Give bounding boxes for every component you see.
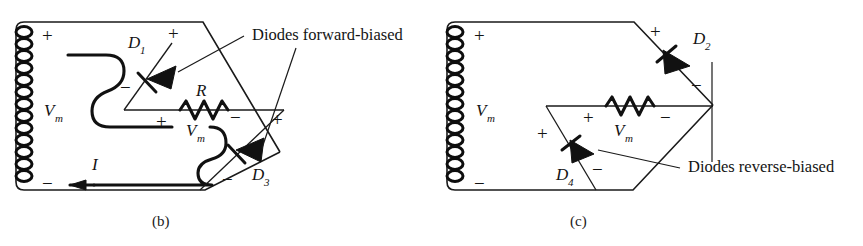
- panel-b-caption: (b): [152, 213, 170, 230]
- diode-d4-minus: −: [592, 159, 603, 180]
- load-minus-c: −: [660, 107, 671, 128]
- callout-reverse-biased: Diodes reverse-biased: [688, 157, 835, 176]
- panel-c: + − V m + − V m D 2 +: [447, 21, 835, 230]
- circuit-diagram-svg: + − V m I: [0, 0, 863, 246]
- source-minus-b: −: [42, 173, 53, 194]
- panel-b-outer-loop: [24, 22, 280, 190]
- diode-d4-label-sub: 4: [568, 176, 574, 188]
- panel-c-caption: (c): [570, 213, 587, 230]
- resistor-label-b: R: [195, 81, 207, 100]
- diode-d1-plus: +: [168, 23, 179, 44]
- diode-d2-plus: +: [650, 21, 661, 42]
- diode-d2-label: D: [692, 29, 706, 48]
- diode-d2-minus: −: [691, 75, 702, 96]
- panel-b: + − V m I: [16, 22, 403, 230]
- diode-d1: [138, 66, 176, 92]
- diode-d3-label-sub: 3: [263, 176, 270, 188]
- transformer-coil-c: [447, 22, 463, 190]
- diode-d4-plus: +: [537, 123, 548, 144]
- callout-forward-biased: Diodes forward-biased: [252, 25, 403, 44]
- diode-d1-label-sub: 1: [140, 44, 146, 56]
- diode-d4-label: D: [555, 165, 569, 184]
- source-label-sub-b: m: [55, 112, 63, 124]
- source-plus-c: +: [474, 25, 485, 46]
- diode-d1-minus: −: [120, 77, 131, 98]
- diode-d2-label-sub: 2: [705, 40, 711, 52]
- diode-d2: [657, 46, 690, 74]
- diode-d1-label: D: [127, 33, 141, 52]
- figure-canvas: + − V m I: [0, 0, 863, 246]
- current-arrow-b: [70, 180, 94, 190]
- load-plus-c: +: [583, 107, 594, 128]
- diode-d3-minus: −: [222, 169, 233, 190]
- source-label-sub-c: m: [487, 112, 495, 124]
- source-minus-c: −: [474, 173, 485, 194]
- load-minus-b: −: [230, 107, 241, 128]
- current-label-b: I: [91, 155, 99, 174]
- load-voltage-sub-c: m: [625, 132, 633, 144]
- load-plus-b: +: [156, 111, 167, 132]
- source-plus-b: +: [42, 25, 53, 46]
- diode-d3-label: D: [251, 165, 265, 184]
- transformer-coil-b: [16, 22, 32, 190]
- load-voltage-sub-b: m: [197, 132, 205, 144]
